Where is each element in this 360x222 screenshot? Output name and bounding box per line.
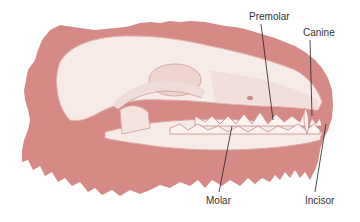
label-incisor: Incisor (305, 196, 334, 206)
skull-diagram: Premolar Canine Molar Incisor (0, 0, 360, 222)
label-canine: Canine (303, 28, 335, 38)
label-premolar: Premolar (249, 12, 290, 22)
label-molar: Molar (206, 196, 231, 206)
